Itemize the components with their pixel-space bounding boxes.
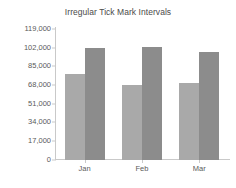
y-tick-mark: [52, 122, 56, 123]
x-tick-label: Jan: [79, 164, 91, 173]
x-tick-mark: [199, 160, 200, 163]
bar: [179, 83, 199, 159]
bar: [122, 85, 142, 159]
bar: [199, 52, 219, 159]
y-tick-mark: [52, 29, 56, 30]
x-tick-label: Mar: [193, 164, 206, 173]
y-tick-mark: [52, 159, 56, 160]
y-tick-mark: [52, 47, 56, 48]
x-tick-mark: [85, 160, 86, 163]
y-tick-mark: [52, 140, 56, 141]
bar-group: [122, 29, 162, 160]
bar: [142, 47, 162, 160]
x-tick-label: Feb: [136, 164, 149, 173]
bar: [85, 48, 105, 159]
bar-chart: Irregular Tick Mark Intervals 017,00034,…: [0, 0, 236, 188]
x-tick-mark: [142, 160, 143, 163]
bar-group: [65, 29, 105, 160]
bar-group: [179, 29, 219, 160]
bar: [65, 74, 85, 160]
plot-area: 017,00034,00051,00068,00085,000102,00011…: [56, 29, 228, 160]
chart-title: Irregular Tick Mark Intervals: [0, 7, 236, 17]
y-tick-mark: [52, 103, 56, 104]
y-tick-mark: [52, 66, 56, 67]
y-tick-mark: [52, 84, 56, 85]
